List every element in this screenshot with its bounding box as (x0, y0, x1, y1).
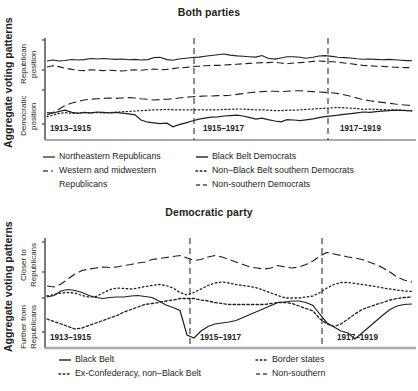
legend-label-western-midwestern-republicans: Western and midwestern (59, 164, 156, 176)
legend-label-black-belt: Black Belt (75, 353, 114, 365)
series-non-southern (47, 253, 412, 288)
legend-label-non-southern: Non-southern (272, 367, 325, 379)
y-axis-label-aggregate-voting-patterns-bottom: Aggregate voting patterns (2, 232, 14, 352)
legend-item-border-states: Border states (255, 353, 325, 366)
series-black-belt (47, 290, 412, 340)
legend-key-dashed-icon (255, 367, 272, 379)
y-axis-label-aggregate-voting-patterns-top: Aggregate voting patterns (2, 36, 14, 148)
legend-key-dashed-icon (195, 178, 212, 190)
x-tick-1913-1915-bottom: 1913–1915 (50, 333, 91, 342)
y-axis-sublabel-republican-position-line2: position (30, 42, 38, 86)
panel-democratic-party: Democratic party Aggregate voting patter… (0, 196, 418, 391)
x-tick-1917-1919-bottom: 1917–1919 (337, 333, 378, 342)
legend-democratic-party-right: Border states Non-southern (255, 353, 325, 381)
x-tick-1915-1917-top: 1915–1917 (203, 124, 244, 133)
y-axis-sublabel-closer-to-line2: Republicans (30, 236, 38, 294)
legend-label-non-southern-democrats: Non-southern Democrats (212, 178, 310, 190)
legend-democratic-party-left: Black Belt Ex-Confederacy, non–Black Bel… (58, 353, 201, 381)
legend-item-western-midwestern-republicans: Western and midwestern (42, 164, 161, 177)
series-ex-confederacy-non-black-belt (47, 297, 412, 329)
legend-key-dotted-icon (255, 353, 272, 365)
legend-key-dotted-icon (195, 164, 212, 176)
legend-label-border-states: Border states (272, 353, 324, 365)
figure-root: Both parties Aggregate voting patterns R… (0, 0, 418, 391)
series-border-states (47, 282, 412, 298)
legend-label-western-midwestern-republicans-line2: Republicans (59, 178, 161, 190)
series-western-midwestern-republicans (47, 61, 412, 71)
x-tick-1915-1917-bottom: 1915–1917 (200, 333, 241, 342)
y-axis-sublabel-further-from-line1: Further from (20, 296, 28, 358)
legend-key-solid-icon (195, 150, 212, 162)
chart-title-both-parties: Both parties (0, 6, 418, 18)
y-axis-sublabel-democratic-position-line2: position (30, 92, 38, 140)
y-axis-sublabel-closer-to-line1: Closer to (20, 236, 28, 294)
legend-item-black-belt: Black Belt (58, 353, 201, 366)
legend-key-dashdot-icon (42, 164, 59, 176)
legend-item-northeastern-republicans: Northeastern Republicans (42, 150, 161, 163)
y-axis-sublabel-democratic-position-line1: Democratic (20, 92, 28, 140)
legend-item-non-southern-democrats: Non-southern Democrats (195, 178, 354, 191)
y-axis-sublabel-further-from-line2: Republicans (30, 296, 38, 358)
series-non-southern-democrats (47, 91, 412, 115)
legend-key-solid-icon (42, 150, 59, 162)
y-axis-sublabel-republican-position-line1: Republican (20, 42, 28, 86)
legend-both-parties-left: Northeastern Republicans Western and mid… (42, 150, 161, 190)
legend-key-solid-icon (58, 353, 75, 365)
x-tick-1917-1919-top: 1917–1919 (340, 124, 381, 133)
legend-label-ex-confederacy-non-black-belt: Ex-Confederacy, non–Black Belt (75, 367, 201, 379)
legend-label-non-black-belt-southern-democrats: Non–Black Belt southern Democrats (212, 164, 354, 176)
legend-item-non-southern: Non-southern (255, 367, 325, 380)
legend-key-dotted-icon (58, 367, 75, 379)
legend-item-non-black-belt-southern-democrats: Non–Black Belt southern Democrats (195, 164, 354, 177)
legend-label-black-belt-democrats: Black Belt Democrats (212, 150, 296, 162)
legend-both-parties-right: Black Belt Democrats Non–Black Belt sout… (195, 150, 354, 192)
legend-item-ex-confederacy-non-black-belt: Ex-Confederacy, non–Black Belt (58, 367, 201, 380)
legend-label-northeastern-republicans: Northeastern Republicans (59, 150, 161, 162)
series-northeastern-republicans (47, 54, 412, 61)
legend-item-black-belt-democrats: Black Belt Democrats (195, 150, 354, 163)
panel-both-parties: Both parties Aggregate voting patterns R… (0, 0, 418, 196)
chart-title-democratic-party: Democratic party (0, 206, 418, 218)
x-tick-1913-1915-top: 1913–1915 (50, 124, 91, 133)
